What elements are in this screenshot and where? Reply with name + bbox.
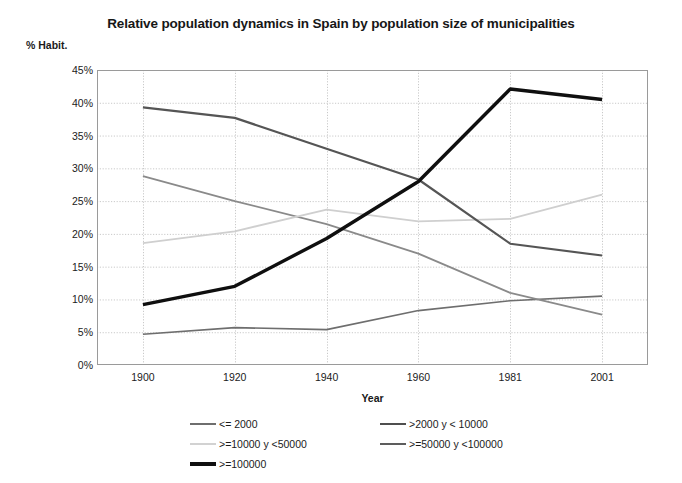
y-tick-label: 45% (47, 64, 93, 76)
legend-item-label: >=50000 y <100000 (409, 438, 503, 450)
series-canvas (97, 70, 648, 365)
series-line-0 (143, 296, 602, 334)
y-tick-label: 10% (47, 293, 93, 305)
legend-line-swatch-icon (190, 423, 216, 425)
series-line-1 (143, 176, 602, 314)
series-line-3 (143, 107, 602, 255)
legend-line-swatch-icon (380, 423, 406, 425)
y-tick-label: 40% (47, 97, 93, 109)
legend-item-label: >=10000 y <50000 (219, 438, 307, 450)
x-tick-label: 1920 (200, 371, 270, 383)
legend-line-swatch-icon (380, 443, 406, 445)
y-tick-label: 15% (47, 261, 93, 273)
x-axis-title: Year (97, 392, 648, 404)
plot-area (97, 70, 648, 365)
legend-item[interactable]: >=10000 y <50000 (190, 438, 307, 450)
series-lines (143, 89, 602, 334)
legend-item[interactable]: >=50000 y <100000 (380, 438, 503, 450)
legend-item-label: >=100000 (219, 458, 266, 470)
y-tick-label: 35% (47, 130, 93, 142)
x-tick-label: 2001 (567, 371, 637, 383)
legend-item[interactable]: >=100000 (190, 458, 266, 470)
legend-item[interactable]: >2000 y < 10000 (380, 418, 488, 430)
x-tick-label: 1960 (383, 371, 453, 383)
legend-line-swatch-icon (190, 462, 216, 466)
legend-line-swatch-icon (190, 443, 216, 445)
x-tick-label: 1981 (475, 371, 545, 383)
series-line-4 (143, 89, 602, 305)
y-tick-label: 5% (47, 326, 93, 338)
gridlines (97, 71, 648, 333)
legend-item[interactable]: <= 2000 (190, 418, 258, 430)
x-tick-label: 1900 (108, 371, 178, 383)
y-axis-tick-labels: 0%5%10%15%20%25%30%35%40%45% (43, 70, 93, 365)
chart-figure: Relative population dynamics in Spain by… (0, 0, 682, 483)
legend-item-label: >2000 y < 10000 (409, 418, 488, 430)
y-tick-label: 30% (47, 162, 93, 174)
x-tick-label: 1940 (292, 371, 362, 383)
chart-legend: <= 2000>2000 y < 10000>=10000 y <50000>=… (150, 418, 570, 476)
y-axis-title: % Habit. (26, 39, 67, 51)
y-tick-label: 0% (47, 359, 93, 371)
legend-item-label: <= 2000 (219, 418, 258, 430)
chart-title: Relative population dynamics in Spain by… (0, 16, 682, 31)
x-axis-tick-labels: 190019201940196019812001 (97, 371, 648, 391)
y-tick-label: 25% (47, 195, 93, 207)
y-tick-label: 20% (47, 228, 93, 240)
